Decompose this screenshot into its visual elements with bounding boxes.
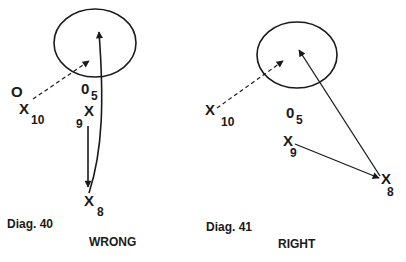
player-8-number: 8 [387,185,394,199]
player-10-number: 10 [31,113,45,127]
player-9-mark: X [84,102,94,119]
player-10-mark: X [205,101,215,118]
cross-arrow-9 [295,144,379,178]
verdict-label: RIGHT [278,237,316,251]
player-10-mark: X [19,100,29,117]
diagram-caption: Diag. 41 [206,220,252,234]
player-5-number: 5 [91,89,98,103]
player-8-mark: X [84,192,94,209]
player-9-number: 9 [290,146,297,160]
player-5-mark: 0 [81,80,89,97]
verdict-label: WRONG [89,235,136,249]
long-arrow-8 [299,50,380,176]
diagram-caption: Diag. 40 [7,217,53,231]
player-8-number: 8 [97,205,104,219]
target-zone-circle [257,22,337,88]
diagram-40: O X 10 0 5 X 9 X 8 Diag. 40 WRONG [7,9,136,249]
player-5-mark: 0 [286,104,294,121]
player-9-number: 9 [76,117,83,131]
diagram-canvas: O X 10 0 5 X 9 X 8 Diag. 40 WRONG X 10 0… [0,0,406,262]
opponent-marker: O [11,83,23,100]
diagram-41: X 10 0 5 X 9 X 8 Diag. 41 RIGHT [205,22,394,251]
player-10-number: 10 [221,115,235,129]
player-5-number: 5 [296,113,303,127]
target-zone-circle [54,9,136,77]
dashed-arrow-10 [217,61,283,108]
